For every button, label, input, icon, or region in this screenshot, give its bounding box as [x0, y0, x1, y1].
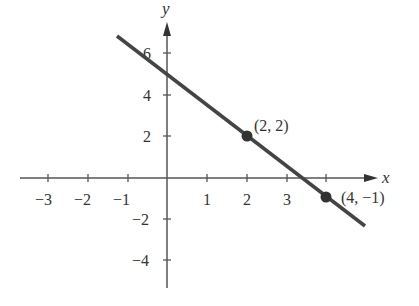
- point-label: (4, −1): [341, 189, 385, 207]
- x-axis-label: x: [381, 168, 390, 187]
- data-point-2-2: [242, 131, 253, 142]
- y-tick-label: −2: [132, 211, 149, 228]
- y-tick-label: 4: [143, 87, 151, 104]
- x-tick-label: −1: [113, 191, 130, 208]
- data-point-4-neg1: [321, 192, 332, 203]
- y-axis-arrow-icon: [163, 22, 171, 36]
- y-tick-label: 2: [143, 128, 151, 145]
- point-label: (2, 2): [254, 117, 289, 135]
- x-tick-label: −2: [74, 191, 91, 208]
- x-axis-arrow-icon: [364, 174, 378, 182]
- x-tick-label: 2: [243, 191, 251, 208]
- y-tick-label: −4: [132, 252, 149, 269]
- y-axis-label: y: [160, 0, 170, 18]
- x-tick-label: 3: [283, 191, 291, 208]
- x-tick-label: 1: [203, 191, 211, 208]
- coordinate-plane: −3 −2 −1 1 2 3 6 4 2 −2 −4 x y (2, 2) (4…: [0, 0, 419, 306]
- x-tick-label: −3: [35, 191, 52, 208]
